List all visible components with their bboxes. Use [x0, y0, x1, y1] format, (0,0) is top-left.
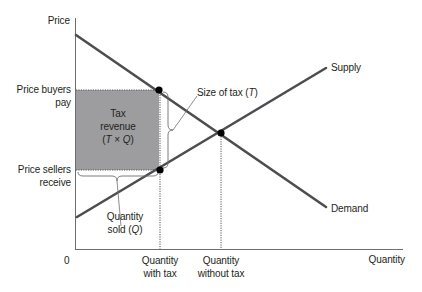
quantity-with-tax-line1: Quantity: [130, 255, 190, 267]
price-sellers-receive-line2: receive: [0, 177, 71, 189]
tax-revenue-formula: (T × Q): [86, 134, 150, 146]
buyers-price-point: [155, 86, 162, 93]
quantity-sold-line1: Quantity: [100, 211, 150, 223]
price-buyers-pay-line1: Price buyers: [0, 84, 71, 96]
formula-close-paren: ): [130, 134, 133, 145]
quantity-sold-line2: sold (Q): [100, 224, 150, 236]
price-sellers-receive-line1: Price sellers: [0, 164, 71, 176]
origin-label: 0: [64, 255, 69, 267]
quantity-sold-text: sold (: [108, 224, 132, 235]
size-of-tax-leader: [173, 96, 197, 130]
supply-label: Supply: [331, 62, 361, 74]
quantity-sold-close: ): [139, 224, 142, 235]
y-axis-label: Price: [20, 15, 70, 27]
size-of-tax-label: Size of tax (T): [197, 87, 258, 99]
x-axis-label: Quantity: [360, 254, 405, 266]
size-of-tax-brace: [163, 92, 173, 168]
quantity-with-tax-line2: with tax: [130, 268, 190, 280]
price-buyers-pay-line2: pay: [0, 97, 71, 109]
demand-label: Demand: [331, 203, 368, 215]
diagram-canvas: [0, 0, 422, 292]
tax-revenue-line1: Tax: [86, 108, 150, 120]
sellers-price-point: [156, 166, 163, 173]
quantity-without-tax-line2: without tax: [186, 268, 256, 280]
size-of-tax-close: ): [255, 87, 258, 98]
quantity-sold-Q: Q: [131, 224, 139, 235]
tax-incidence-diagram: Price Quantity 0 Price buyers pay Price …: [0, 0, 422, 292]
formula-times: ×: [112, 134, 123, 145]
tax-revenue-line2: revenue: [86, 121, 150, 133]
quantity-without-tax-line1: Quantity: [186, 255, 256, 267]
size-of-tax-text: Size of tax (: [197, 87, 249, 98]
equilibrium-point: [217, 129, 224, 136]
